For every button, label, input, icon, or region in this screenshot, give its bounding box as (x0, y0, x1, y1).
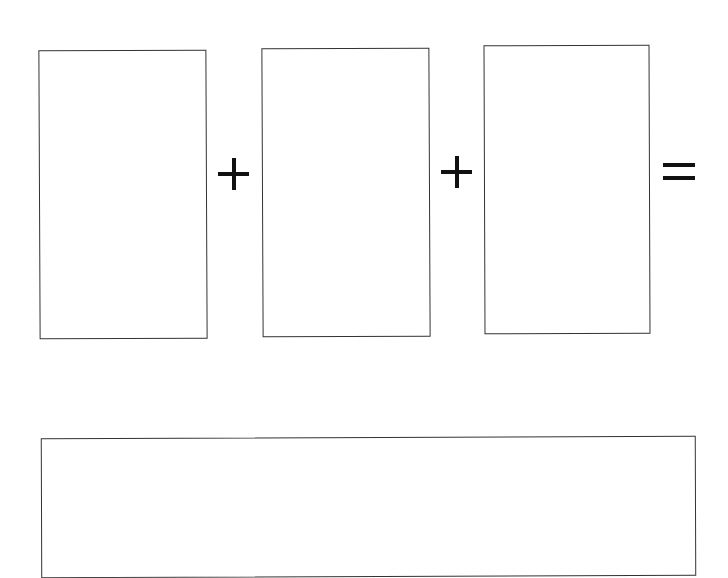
addend-box-1-content (39, 51, 40, 52)
equals-top-stroke (663, 163, 695, 167)
addend-box-1[interactable] (38, 50, 207, 340)
result-box-content (42, 439, 43, 440)
addend-box-3[interactable] (483, 45, 650, 335)
addend-box-2[interactable] (261, 48, 430, 338)
equals-bottom-stroke (663, 176, 695, 180)
plus-icon: + (218, 158, 249, 190)
plus-symbol-text: + (218, 158, 219, 159)
equals-icon: = (663, 163, 695, 181)
plus-symbol-text: + (441, 156, 442, 157)
addend-box-2-content (262, 49, 263, 50)
plus-vertical-stroke (455, 156, 459, 188)
plus-vertical-stroke (232, 158, 236, 190)
plus-icon: + (441, 156, 472, 188)
addend-box-3-content (484, 46, 485, 47)
result-box[interactable] (41, 436, 696, 578)
